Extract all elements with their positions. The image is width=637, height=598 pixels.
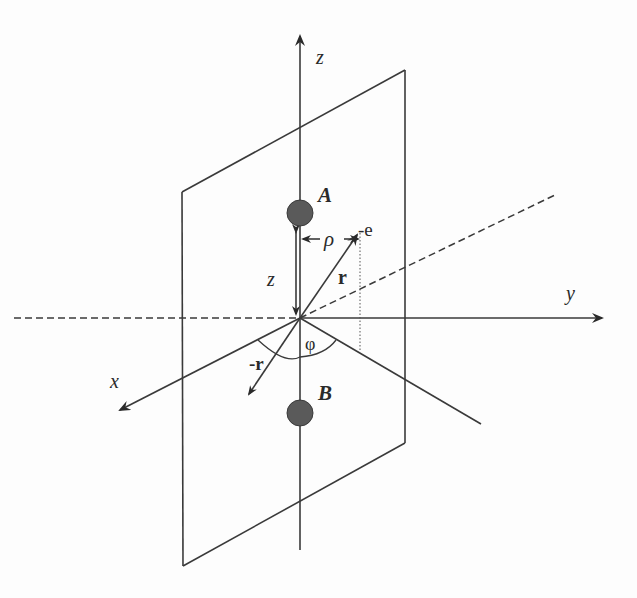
diagram-svg: z y x r -r φ z ρ -e A B — [0, 0, 637, 598]
y-axis-label: y — [564, 282, 575, 305]
neg-r-label: -r — [249, 353, 264, 374]
electron-label: -e — [358, 219, 373, 240]
diagram-canvas: z y x r -r φ z ρ -e A B — [0, 0, 637, 598]
x-axis-label: x — [109, 370, 119, 392]
phi-label: φ — [305, 334, 315, 354]
nucleus-a — [287, 200, 313, 226]
z-axis-label: z — [315, 46, 324, 68]
nucleus-b — [287, 400, 313, 426]
x-axis — [120, 318, 300, 410]
r-projection-dashed — [300, 194, 557, 318]
phi-arc — [258, 340, 336, 359]
r-label: r — [338, 266, 347, 288]
nucleus-b-label: B — [317, 381, 332, 405]
rho-label: ρ — [323, 227, 334, 251]
nucleus-a-label: A — [316, 183, 332, 207]
z-distance-label: z — [266, 268, 275, 290]
projection-line — [300, 318, 481, 424]
